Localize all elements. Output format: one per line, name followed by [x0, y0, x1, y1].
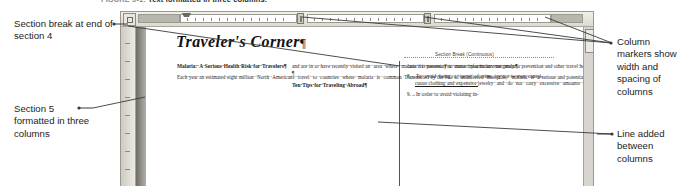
- list-item-8-text-a: To··avoid··being··a··target··of·crime,·t…: [416, 73, 543, 79]
- ruler-column-3-area: [434, 14, 551, 23]
- list-item-9: 9.→In·order·to·avoid·violating·in-: [407, 91, 509, 98]
- text-column-1: Malaria:·A·Serious·Health·Risk·for·Trave…: [177, 63, 277, 82]
- ruler-ticks-2: [314, 18, 417, 21]
- callout-section-five: Section 5 formatted in three columns: [14, 103, 94, 140]
- ruler-ticks-1: [187, 18, 290, 21]
- word-document-window: Traveler's Corner¶ Section Break (Contin…: [120, 11, 594, 186]
- document-title: Traveler's Corner¶: [176, 33, 306, 51]
- list-item-8-number: 8.→: [407, 73, 416, 79]
- callout-column-markers: Column markers show width and spacing of…: [617, 36, 681, 98]
- vertical-scrollbar[interactable]: [583, 27, 593, 186]
- section-break-label: Section Break (Continuous): [432, 52, 497, 57]
- ruler-margin-left: [138, 14, 180, 23]
- ruler-margin-right: [551, 14, 583, 23]
- ruler-ticks-3: [441, 18, 544, 21]
- figure-caption: FIGURE 5-1: Text formatted in three colu…: [101, 0, 401, 4]
- callout-line-added: Line added between columns: [617, 128, 679, 165]
- ruler-column-1-area: [180, 14, 297, 23]
- select-all-box[interactable]: [123, 13, 136, 26]
- figure-caption-text: Text formatted in three columns.: [148, 0, 267, 4]
- column-1-body: Each·year·an·estimated·eight·million··No…: [177, 74, 277, 81]
- section-break-marker: Section Break (Continuous): [404, 52, 554, 62]
- first-line-indent-marker[interactable]: [182, 13, 191, 21]
- horizontal-ruler[interactable]: [121, 12, 593, 27]
- column-2-empty-paragraph: ¶: [292, 70, 392, 77]
- document-page[interactable]: Traveler's Corner¶ Section Break (Contin…: [146, 27, 583, 186]
- column-marker-2[interactable]: [424, 13, 431, 24]
- list-item-8-text-underlined: cuous·clothing·and·expensive·: [415, 80, 478, 87]
- list-item-8: 8.→To··avoid··being··a··target··of·crime…: [407, 73, 509, 87]
- callout-section-break: Section break at end of section 4: [14, 18, 119, 43]
- column-marker-1[interactable]: [297, 13, 304, 24]
- ruler-column-2-area: [307, 14, 424, 23]
- text-column-3: case·it·is·necessary·to·contact·you·in·a…: [407, 63, 509, 98]
- document-title-text: Traveler's Corner: [176, 33, 300, 50]
- list-item-8-text-b: jewelry··and··do··not··carry··excessive·…: [478, 80, 583, 86]
- pilcrow-mark: ¶: [300, 35, 306, 50]
- list-item-9-text: In·order·to·avoid·violating·in-: [416, 91, 479, 97]
- list-item-9-number: 9.→: [407, 91, 416, 97]
- scrollbar-thumb[interactable]: [585, 29, 594, 53]
- column-2-body: and·are·in·or·have·recently·visited·an··…: [292, 63, 392, 70]
- page-shadow: [136, 27, 146, 186]
- column-3-body: case·it·is·necessary·to·contact·you·in·a…: [407, 63, 509, 70]
- column-1-heading: Malaria:·A·Serious·Health·Risk·for·Trave…: [177, 63, 277, 70]
- column-2-heading: Ten·Tips·for·Traveling·Abroad¶: [292, 82, 392, 89]
- figure-caption-number: FIGURE 5-1:: [101, 0, 146, 4]
- section-break-line: [404, 57, 554, 58]
- text-column-2: and·are·in·or·have·recently·visited·an··…: [292, 63, 392, 94]
- document-scroll-area: Traveler's Corner¶ Section Break (Contin…: [121, 27, 593, 186]
- vertical-ruler[interactable]: [121, 27, 136, 186]
